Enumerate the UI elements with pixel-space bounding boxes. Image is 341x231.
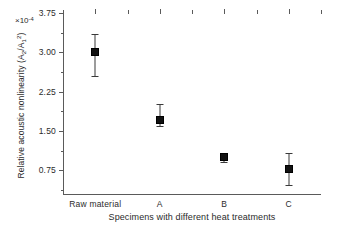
y-tick-1.50 [59, 131, 64, 132]
x-tick-label-raw-material: Raw material [69, 199, 121, 209]
data-marker [91, 48, 99, 56]
y-tick-minor [61, 111, 64, 112]
error-bar-cap-upper [92, 34, 99, 35]
x-tick-minor [321, 10, 322, 14]
error-bar-cap-lower [285, 185, 292, 186]
x-tick-minor [128, 10, 129, 14]
y-tick-label-3.75: 3.75 [39, 8, 56, 18]
y-tick-minor [61, 190, 64, 191]
y-axis-multiplier-exponent: -4 [29, 16, 34, 22]
y-axis-line [63, 13, 64, 194]
x-tick-minor [63, 10, 64, 14]
y-tick-label-1.50: 1.50 [39, 126, 56, 136]
y-tick-label-0.75: 0.75 [39, 165, 56, 175]
y-axis-title-sub2: 1 [20, 39, 27, 43]
y-axis-title-sup2: 2 [15, 36, 22, 40]
data-marker [220, 153, 228, 161]
y-tick-label-3.00: 3.00 [39, 47, 56, 57]
x-tick-minor [257, 10, 258, 14]
y-tick-minor [61, 33, 64, 34]
figure-canvas: ×10-4 Relative acoustic nonlinearity (A2… [0, 0, 341, 231]
y-axis-title-prefix: Relative acoustic nonlinearity (A [16, 54, 26, 178]
data-marker [156, 116, 164, 124]
y-tick-label-2.25: 2.25 [39, 87, 56, 97]
y-tick-3.00 [59, 52, 64, 53]
error-bar-cap-lower [156, 126, 163, 127]
data-marker [285, 165, 293, 173]
x-axis-title: Specimens with different heat treatments [63, 212, 321, 222]
x-tick-b [224, 9, 225, 14]
y-axis-title-mid: /A [16, 43, 26, 51]
y-tick-minor [61, 151, 64, 152]
y-axis-title-suffix: ) [16, 33, 26, 36]
y-tick-0.75 [59, 170, 64, 171]
plot-area: 0.751.502.253.003.75 Raw materialABC [63, 13, 321, 194]
x-tick-label-b: B [221, 199, 227, 209]
x-tick-label-c: C [286, 199, 292, 209]
x-tick-minor [192, 10, 193, 14]
x-tick-label-a: A [157, 199, 163, 209]
x-tick-raw-material [95, 9, 96, 14]
error-bar-cap-lower [92, 76, 99, 77]
x-tick-c [289, 9, 290, 14]
error-bar-cap-lower [221, 162, 228, 163]
y-tick-minor [61, 72, 64, 73]
error-bar-cap-upper [156, 104, 163, 105]
y-axis-title: Relative acoustic nonlinearity (A2/A12) [15, 21, 26, 191]
x-tick-a [160, 9, 161, 14]
y-axis-title-sub1: 2 [20, 51, 27, 55]
error-bar-cap-upper [285, 153, 292, 154]
y-tick-2.25 [59, 92, 64, 93]
x-axis-line [63, 194, 321, 195]
